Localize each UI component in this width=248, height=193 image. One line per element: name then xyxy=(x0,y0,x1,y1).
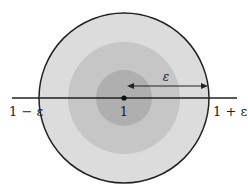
radius-label: ε xyxy=(163,70,169,84)
right-endpoint-label: 1 + ε xyxy=(213,104,247,119)
epsilon-neighborhood-diagram: ε 1 1 − ε 1 + ε xyxy=(0,0,248,193)
center-point xyxy=(121,95,126,100)
center-label: 1 xyxy=(120,104,128,119)
left-endpoint-label: 1 − ε xyxy=(9,104,43,119)
